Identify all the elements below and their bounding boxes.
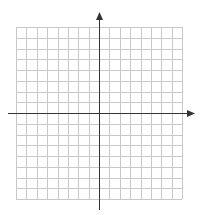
x-axis-arrow-icon: [187, 110, 195, 117]
coordinate-plane: [0, 0, 200, 215]
y-axis-arrow-icon: [96, 12, 103, 20]
coordinate-grid-figure: [0, 0, 200, 215]
axes: [8, 12, 195, 210]
